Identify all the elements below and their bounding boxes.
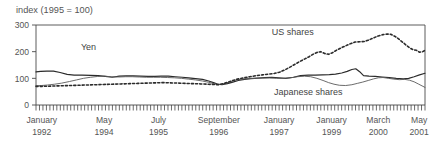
x-axis-month-label: May bbox=[411, 115, 428, 125]
x-axis-month-label: January bbox=[316, 115, 347, 125]
series-annotation-us-shares: US shares bbox=[272, 27, 315, 37]
plot-frame bbox=[36, 25, 425, 105]
x-axis-month-label: May bbox=[96, 115, 113, 125]
x-axis-month-label: July bbox=[151, 115, 167, 125]
x-axis-year-label: 2000 bbox=[369, 127, 388, 137]
series-annotation-japanese-shares: Japanese shares bbox=[274, 87, 343, 97]
chart-container: index (1995 = 100) 0100200300 January199… bbox=[0, 0, 437, 150]
x-axis-year-label: 1996 bbox=[209, 127, 228, 137]
x-axis-month-label: January bbox=[27, 115, 58, 125]
x-axis-year-label: 2001 bbox=[410, 127, 429, 137]
x-axis-month-label: January bbox=[264, 115, 295, 125]
y-axis-tick-label: 200 bbox=[15, 47, 30, 57]
series-annotation-yen: Yen bbox=[81, 42, 96, 52]
y-axis: 0100200300 bbox=[15, 20, 36, 110]
y-axis-tick-label: 100 bbox=[15, 74, 30, 84]
x-axis-year-label: 1997 bbox=[270, 127, 289, 137]
y-axis-tick-label: 0 bbox=[24, 100, 29, 110]
x-axis-year-label: 1994 bbox=[95, 127, 114, 137]
x-axis-year-label: 1999 bbox=[322, 127, 341, 137]
chart-unit-title: index (1995 = 100) bbox=[16, 5, 93, 15]
x-axis-month-label: September bbox=[198, 115, 240, 125]
x-axis-labels: January1992May1994July1995September1996J… bbox=[27, 115, 429, 137]
x-axis-year-label: 1992 bbox=[32, 127, 51, 137]
x-axis-year-label: 1995 bbox=[149, 127, 168, 137]
y-axis-tick-label: 300 bbox=[15, 20, 30, 30]
x-axis-month-label: March bbox=[366, 115, 390, 125]
series-annotations: YenUS sharesJapanese shares bbox=[81, 27, 343, 97]
line-chart: index (1995 = 100) 0100200300 January199… bbox=[0, 0, 437, 150]
x-axis-minor-ticks bbox=[36, 105, 425, 111]
